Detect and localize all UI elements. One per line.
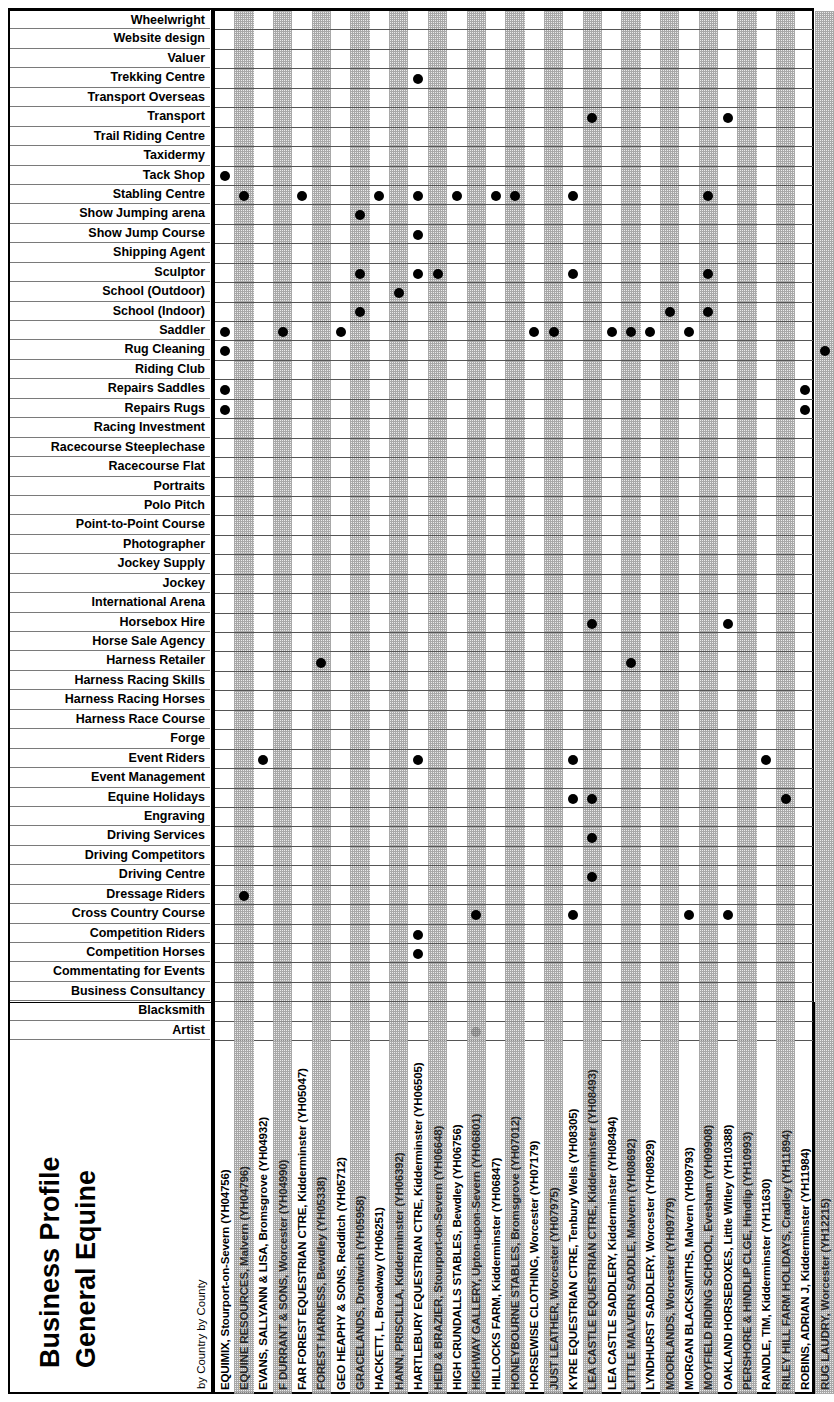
- column-header-cell: PERSHORE & HINDLIP CLGE, Hindlip (YH1099…: [737, 1002, 756, 1394]
- matrix-dot: [220, 327, 230, 337]
- row-label: Jockey: [10, 574, 210, 593]
- column-stripe: [815, 11, 834, 1002]
- report-title: Business Profile General Equine: [35, 1156, 102, 1368]
- matrix-dot: [800, 405, 810, 415]
- column-header-cell: JUST LEATHER, Worcester (YH07975): [544, 1002, 563, 1394]
- row-label: Riding Club: [10, 360, 210, 379]
- row-label: Show Jump Course: [10, 224, 210, 243]
- matrix-dot: [278, 327, 288, 337]
- column-header-label: MOORLANDS, Worcester (YH09779): [663, 1198, 676, 1390]
- matrix-dot: [529, 327, 539, 337]
- matrix-dot: [703, 307, 713, 317]
- matrix-dot: [684, 327, 694, 337]
- row-label: Wheelwright: [10, 10, 210, 29]
- column-header-cell: HIGH CRUNDALLS STABLES, Bewdley (YH06756…: [447, 1002, 466, 1394]
- matrix-dot: [258, 755, 268, 765]
- row-label: Horse Sale Agency: [10, 632, 210, 651]
- matrix-dot: [568, 794, 578, 804]
- row-label: Photographer: [10, 535, 210, 554]
- matrix-dot: [587, 794, 597, 804]
- column-header-label: RANDLE, TIM, Kidderminster (YH11630): [759, 1179, 772, 1390]
- matrix-dot: [239, 191, 249, 201]
- column-header-cell: LITTLE MALVERN SADDLE, Malvern (YH08692): [621, 1002, 640, 1394]
- matrix-dot: [684, 910, 694, 920]
- matrix-dot: [239, 891, 249, 901]
- column-header-cell: HANN, PRISCILLA, Kidderminster (YH06392): [389, 1002, 408, 1394]
- row-label: Tack Shop: [10, 166, 210, 185]
- matrix-dot: [665, 307, 675, 317]
- title-line-1: Business Profile: [35, 1156, 66, 1368]
- matrix-dot: [723, 113, 733, 123]
- column-header-cell: ROBINS, ADRIAN J, Kidderminster (YH11984…: [796, 1002, 815, 1394]
- matrix-dot: [220, 405, 230, 415]
- column-header-label: EQUIMIX, Stourport-on-Severn (YH04756): [218, 1170, 231, 1390]
- column-header-cell: RILEY HILL FARM HOLIDAYS, Cradley (YH118…: [776, 1002, 795, 1394]
- row-label: Driving Services: [10, 826, 210, 845]
- row-label: Rug Cleaning: [10, 340, 210, 359]
- row-label: Cross Country Course: [10, 904, 210, 923]
- matrix-dot: [413, 191, 423, 201]
- column-header-label: HORSEWISE CLOTHING, Worcester (YH07179): [527, 1141, 540, 1390]
- matrix-dot: [800, 385, 810, 395]
- matrix-dot: [413, 230, 423, 240]
- header-right-rule: [813, 1002, 815, 1394]
- row-label: International Arena: [10, 593, 210, 612]
- row-label: Driving Centre: [10, 865, 210, 884]
- matrix-dot: [645, 327, 655, 337]
- column-header-label: FOREST HARNESS, Bewdley (YH05338): [314, 1177, 327, 1390]
- matrix-dot: [220, 385, 230, 395]
- row-label: Shipping Agent: [10, 243, 210, 262]
- column-header-label: LEA CASTLE SADDLERY, Kidderminster (YH08…: [605, 1117, 618, 1390]
- column-header-cell: KYRE EQUESTRIAN CTRE, Tenbury Wells (YH0…: [563, 1002, 582, 1394]
- matrix-dot: [413, 74, 423, 84]
- row-label: Racecourse Steeplechase: [10, 438, 210, 457]
- column-header-label: HIGH CRUNDALLS STABLES, Bewdley (YH06756…: [450, 1125, 463, 1390]
- row-label: Forge: [10, 729, 210, 748]
- column-header-label: EQUINE RESOURCES, Malvern (YH04796): [237, 1166, 250, 1390]
- row-label: Repairs Rugs: [10, 399, 210, 418]
- column-header-label: EVANS, SALLYANN & LISA, Bromsgrove (YH04…: [256, 1117, 269, 1390]
- column-header-cell: EQUIMIX, Stourport-on-Severn (YH04756): [215, 1002, 234, 1394]
- column-header-cell: HIGHWAY GALLERY, Upton-upon-Severn (YH06…: [467, 1002, 486, 1394]
- row-label: Sculptor: [10, 263, 210, 282]
- row-label: Transport Overseas: [10, 88, 210, 107]
- matrix-dot: [297, 191, 307, 201]
- column-header-cell: MOYFIELD RIDING SCHOOL, Evesham (YH09908…: [699, 1002, 718, 1394]
- row-label: Jockey Supply: [10, 554, 210, 573]
- row-label: Racing Investment: [10, 418, 210, 437]
- matrix-dot: [413, 930, 423, 940]
- matrix-dot: [413, 949, 423, 959]
- matrix-dot: [723, 910, 733, 920]
- column-header-label: ROBINS, ADRIAN J, Kidderminster (YH11984…: [798, 1149, 811, 1390]
- column-header-label: HANN, PRISCILLA, Kidderminster (YH06392): [392, 1153, 405, 1390]
- column-header-cell: EVANS, SALLYANN & LISA, Bromsgrove (YH04…: [254, 1002, 273, 1394]
- row-label: Horsebox Hire: [10, 613, 210, 632]
- column-header-cell: FAR FOREST EQUESTRIAN CTRE, Kidderminste…: [292, 1002, 311, 1394]
- matrix-dot: [626, 327, 636, 337]
- column-header-cell: LEA CASTLE EQUESTRIAN CTRE, Kidderminste…: [583, 1002, 602, 1394]
- row-label: Polo Pitch: [10, 496, 210, 515]
- matrix-dot: [549, 327, 559, 337]
- matrix-dot: [568, 269, 578, 279]
- row-label: Point-to-Point Course: [10, 515, 210, 534]
- matrix-dot: [510, 191, 520, 201]
- column-header-label: PERSHORE & HINDLIP CLGE, Hindlip (YH1099…: [740, 1132, 753, 1390]
- row-label: Trekking Centre: [10, 68, 210, 87]
- report-subtitle: by Country by County: [195, 1279, 207, 1389]
- column-header-cell: LEA CASTLE SADDLERY, Kidderminster (YH08…: [602, 1002, 621, 1394]
- matrix-dot: [568, 191, 578, 201]
- row-label: Stabling Centre: [10, 185, 210, 204]
- column-header-cell: MOORLANDS, Worcester (YH09779): [660, 1002, 679, 1394]
- row-label: Event Management: [10, 768, 210, 787]
- column-header-cell: F DURRANT & SONS, Worcester (YH04990): [273, 1002, 292, 1394]
- column-header-cell: HARTLEBURY EQUESTRIAN CTRE, Kidderminste…: [409, 1002, 428, 1394]
- column-header-label: HONEYBOURNE STABLES, Bromsgrove (YH07012…: [508, 1116, 521, 1390]
- row-label: Harness Retailer: [10, 651, 210, 670]
- column-header-cell: GEO HEAPHY & SONS, Redditch (YH05712): [331, 1002, 350, 1394]
- matrix-dot: [568, 755, 578, 765]
- row-label: Repairs Saddles: [10, 379, 210, 398]
- column-header-label: LEA CASTLE EQUESTRIAN CTRE, Kidderminste…: [585, 1070, 598, 1391]
- matrix-dot: [355, 307, 365, 317]
- column-header-cell: OAKLAND HORSEBOXES, Little Witley (YH103…: [718, 1002, 737, 1394]
